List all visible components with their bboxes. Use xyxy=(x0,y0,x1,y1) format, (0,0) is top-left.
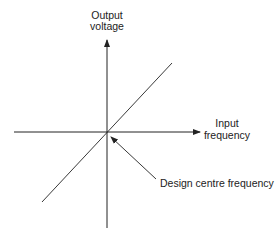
x-axis-label-line2: frequency xyxy=(204,129,251,141)
annotation-arrow xyxy=(111,137,156,179)
x-axis-label-line1: Input xyxy=(215,117,238,129)
vco-transfer-diagram: Output voltage Input frequency Design ce… xyxy=(0,0,280,238)
annotation-label: Design centre frequency xyxy=(160,177,275,189)
y-axis-label-line2: voltage xyxy=(90,20,124,32)
